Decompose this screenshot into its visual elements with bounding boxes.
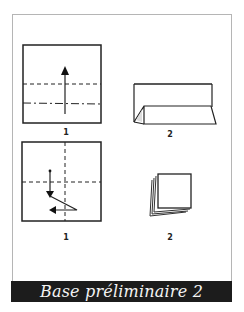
step-number: 1 (58, 233, 74, 242)
step1-square-zigzag-icon (21, 141, 103, 223)
step-number: 2 (162, 233, 178, 242)
step1-square-fold-up-icon (22, 44, 104, 126)
step2-folded-tent-icon (130, 80, 220, 128)
step-number: 2 (162, 130, 178, 139)
diagram-title: Base préliminaire 2 (11, 281, 232, 302)
step-number: 1 (58, 128, 74, 137)
step2-preliminary-base-icon (148, 172, 200, 224)
